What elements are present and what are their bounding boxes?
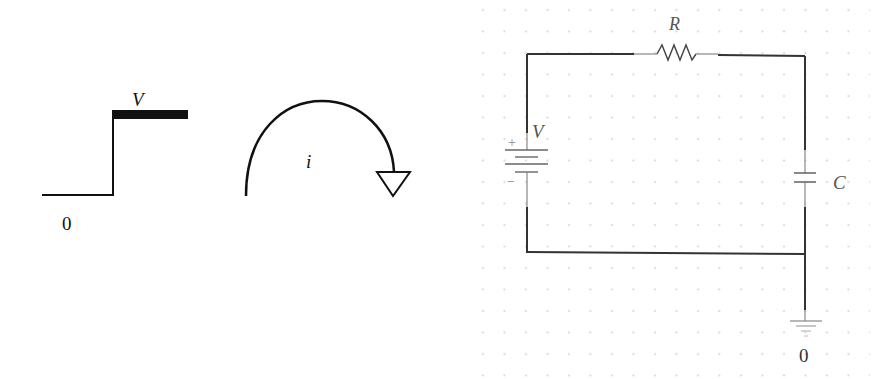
source-minus-label: − xyxy=(507,174,515,189)
diagram-canvas: V 0 i xyxy=(0,0,887,379)
source-plus-label: + xyxy=(508,135,516,150)
step-high-label: V xyxy=(132,89,146,110)
current-arrow-icon xyxy=(246,101,410,196)
resistor-label: R xyxy=(668,14,680,34)
step-low-label: 0 xyxy=(62,213,72,234)
current-label: i xyxy=(306,151,311,172)
capacitor-label: C xyxy=(833,172,846,193)
ground-label: 0 xyxy=(799,345,809,366)
step-waveform xyxy=(42,110,188,195)
